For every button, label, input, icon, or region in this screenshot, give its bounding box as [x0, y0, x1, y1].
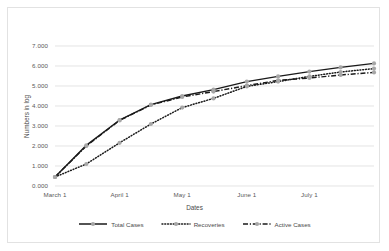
y-axis-tick-7-000: 7.000: [22, 42, 48, 49]
chart-legend: Total CasesRecoveriesActive Cases: [8, 220, 381, 228]
data-point-recoveries-5: [211, 96, 215, 100]
dashdot-line-marker-key: [242, 220, 272, 228]
data-point-active-cases-2: [118, 118, 122, 122]
y-axis-tick-5-000: 5.000: [22, 82, 48, 89]
solid-line-marker-key: [78, 220, 108, 228]
data-point-total-cases-9: [339, 65, 343, 69]
data-point-recoveries-1: [84, 162, 88, 166]
data-point-active-cases-7: [276, 78, 280, 82]
chart-plot-area: 0.0001.0002.0003.0004.0005.0006.0007.000…: [8, 8, 381, 244]
data-point-total-cases-7: [276, 74, 280, 78]
x-axis-tick-july-1: July 1: [284, 191, 334, 198]
data-point-total-cases-8: [307, 70, 311, 74]
x-axis-tick-june-1: June 1: [222, 191, 272, 198]
chart-frame: 0.0001.0002.0003.0004.0005.0006.0007.000…: [7, 7, 380, 243]
data-point-active-cases-1: [84, 144, 88, 148]
legend-label: Recoveries: [194, 221, 225, 228]
series-line-total-cases: [55, 63, 374, 177]
legend-label: Active Cases: [275, 221, 311, 228]
legend-item-recoveries[interactable]: Recoveries: [161, 220, 225, 228]
data-point-active-cases-8: [307, 76, 311, 80]
gridlines: [55, 46, 374, 186]
legend-item-active-cases[interactable]: Active Cases: [242, 220, 311, 228]
y-axis-tick-0-000: 0.000: [22, 182, 48, 189]
x-axis-tick-march-1: March 1: [30, 191, 80, 198]
data-point-active-cases-0: [53, 175, 57, 179]
x-axis-tick-may-1: May 1: [157, 191, 207, 198]
data-point-recoveries-10: [372, 67, 376, 71]
x-axis-title: Dates: [8, 204, 381, 211]
data-point-active-cases-3: [149, 103, 153, 107]
y-axis-tick-6-000: 6.000: [22, 62, 48, 69]
data-point-total-cases-10: [372, 61, 376, 65]
data-point-active-cases-6: [245, 84, 249, 88]
y-axis-title: Numbers in log: [23, 95, 30, 138]
data-point-recoveries-4: [180, 106, 184, 110]
legend-item-total-cases[interactable]: Total Cases: [78, 220, 143, 228]
x-axis-tick-april-1: April 1: [95, 191, 145, 198]
data-point-active-cases-4: [180, 95, 184, 99]
data-point-recoveries-3: [149, 122, 153, 126]
y-axis-tick-2-000: 2.000: [22, 142, 48, 149]
data-point-active-cases-10: [372, 70, 376, 74]
data-point-total-cases-6: [245, 80, 249, 84]
data-point-active-cases-5: [211, 90, 215, 94]
legend-label: Total Cases: [111, 221, 143, 228]
y-axis-tick-1-000: 1.000: [22, 162, 48, 169]
dotted-line-marker-key: [161, 220, 191, 228]
data-point-active-cases-9: [339, 73, 343, 77]
data-point-recoveries-2: [118, 141, 122, 145]
series-layer: [53, 61, 376, 179]
series-line-recoveries: [55, 69, 374, 177]
